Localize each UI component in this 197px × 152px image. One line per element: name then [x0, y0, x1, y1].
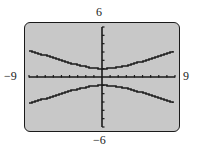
axes — [29, 27, 175, 127]
lower-branch — [29, 85, 173, 103]
upper-branch — [29, 51, 173, 69]
graph-plot — [0, 0, 197, 152]
